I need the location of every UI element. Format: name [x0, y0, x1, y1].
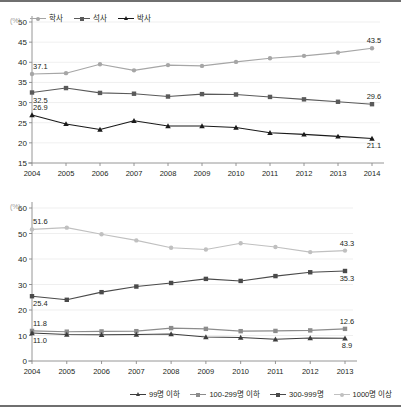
svg-text:0: 0 — [23, 357, 28, 366]
svg-text:2012: 2012 — [296, 169, 313, 178]
svg-text:45: 45 — [18, 38, 27, 47]
svg-text:21.1: 21.1 — [367, 141, 382, 150]
legend-label: 석사 — [93, 14, 107, 23]
svg-text:2004: 2004 — [24, 169, 41, 178]
legend-label: 99명 이하 — [149, 390, 180, 399]
svg-text:26.9: 26.9 — [33, 103, 48, 112]
svg-text:50: 50 — [18, 230, 27, 239]
chart-page: 1520253035404550200420052006200720082009… — [0, 0, 401, 412]
legend-item-1[interactable]: 99명 이하 — [130, 390, 180, 399]
svg-text:2007: 2007 — [128, 367, 145, 376]
svg-text:35: 35 — [18, 78, 27, 87]
svg-text:2005: 2005 — [58, 367, 75, 376]
legend-marker-icon — [74, 15, 90, 23]
legend-label: 학사 — [49, 14, 63, 23]
svg-text:2004: 2004 — [24, 367, 41, 376]
top-chart-panel: 1520253035404550200420052006200720082009… — [0, 0, 401, 186]
legend-item-4[interactable]: 1000명 이상 — [334, 390, 393, 399]
svg-text:30: 30 — [18, 99, 27, 108]
svg-text:25.4: 25.4 — [33, 299, 48, 308]
svg-text:30: 30 — [18, 281, 27, 290]
legend-marker-icon — [130, 391, 146, 399]
svg-text:37.1: 37.1 — [33, 62, 48, 71]
svg-text:20: 20 — [18, 306, 27, 315]
legend-marker-icon — [334, 391, 350, 399]
svg-text:2007: 2007 — [126, 169, 143, 178]
legend-label: 300-999명 — [289, 390, 324, 399]
svg-text:15: 15 — [18, 159, 27, 168]
bottom-line-chart: 0102030405060200420052006200720082009201… — [0, 188, 401, 412]
svg-text:29.6: 29.6 — [367, 92, 382, 101]
bottom-chart-panel: 0102030405060200420052006200720082009201… — [0, 188, 401, 412]
svg-text:20: 20 — [18, 139, 27, 148]
svg-text:2006: 2006 — [93, 367, 110, 376]
svg-text:2011: 2011 — [262, 169, 278, 178]
top-line-chart: 1520253035404550200420052006200720082009… — [0, 0, 401, 186]
bottom-divider-rule — [0, 405, 401, 407]
svg-text:25: 25 — [18, 119, 27, 128]
svg-text:2005: 2005 — [58, 169, 75, 178]
svg-text:35.3: 35.3 — [340, 274, 355, 283]
svg-text:12.6: 12.6 — [340, 317, 355, 326]
legend-label: 1000명 이상 — [353, 390, 393, 399]
svg-text:2013: 2013 — [330, 169, 347, 178]
svg-text:11.0: 11.0 — [33, 336, 47, 345]
legend-marker-icon — [118, 15, 134, 23]
svg-text:2009: 2009 — [194, 169, 211, 178]
svg-text:2014: 2014 — [364, 169, 381, 178]
legend-label: 박사 — [137, 14, 151, 23]
svg-text:40: 40 — [18, 58, 27, 67]
legend-item-3[interactable]: 박사 — [118, 14, 151, 23]
bottom-y-axis-unit: (%) — [10, 203, 20, 210]
svg-text:51.6: 51.6 — [33, 217, 48, 226]
svg-text:2008: 2008 — [163, 367, 180, 376]
svg-text:2013: 2013 — [337, 367, 354, 376]
svg-text:2008: 2008 — [160, 169, 177, 178]
legend-marker-icon — [270, 391, 286, 399]
svg-text:40: 40 — [18, 255, 27, 264]
svg-text:43.5: 43.5 — [367, 36, 382, 45]
legend-marker-icon — [190, 391, 206, 399]
svg-text:43.3: 43.3 — [340, 239, 355, 248]
legend-item-2[interactable]: 100-299명 이하 — [190, 390, 260, 399]
bottom-chart-legend: 99명 이하100-299명 이하300-999명1000명 이상 — [130, 390, 392, 399]
svg-text:11.8: 11.8 — [33, 319, 47, 328]
svg-text:8.9: 8.9 — [342, 341, 352, 350]
svg-text:2009: 2009 — [198, 367, 215, 376]
legend-label: 100-299명 이하 — [209, 390, 260, 399]
svg-text:2010: 2010 — [228, 169, 245, 178]
svg-text:2006: 2006 — [92, 169, 109, 178]
legend-item-3[interactable]: 300-999명 — [270, 390, 324, 399]
svg-text:2010: 2010 — [232, 367, 249, 376]
legend-marker-icon — [30, 15, 46, 23]
top-y-axis-unit: (%) — [10, 17, 20, 24]
svg-text:10: 10 — [18, 332, 27, 341]
svg-text:2011: 2011 — [267, 367, 283, 376]
top-chart-legend: 학사석사박사 — [30, 14, 151, 23]
legend-item-1[interactable]: 학사 — [30, 14, 63, 23]
svg-text:2012: 2012 — [302, 367, 319, 376]
legend-item-2[interactable]: 석사 — [74, 14, 107, 23]
